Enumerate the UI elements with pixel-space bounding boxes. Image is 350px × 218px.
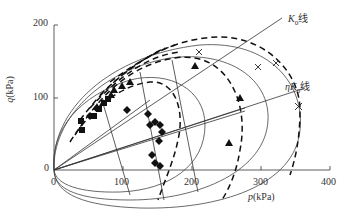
x-tick-label-400: 400 bbox=[321, 176, 336, 187]
triangle-marker bbox=[225, 139, 233, 146]
yield-curve-3 bbox=[54, 77, 205, 192]
square-marker bbox=[79, 127, 85, 133]
k0-suffix: 线 bbox=[298, 13, 308, 24]
k0-line bbox=[54, 18, 282, 170]
x-axis-unit: (kPa) bbox=[253, 191, 275, 202]
y-axis-symbol: q bbox=[4, 98, 15, 103]
x-tick-label-200: 200 bbox=[184, 176, 199, 187]
triangle-marker bbox=[191, 62, 199, 69]
y-tick-label-0: 0 bbox=[44, 162, 49, 173]
k0-line-label: K0线 bbox=[288, 10, 308, 27]
dashed-arc-6 bbox=[110, 45, 175, 82]
eta-k0-line-label: ηK0线 bbox=[285, 78, 310, 95]
x-tick-label-100: 100 bbox=[114, 176, 129, 187]
dashed-arc-2 bbox=[75, 57, 242, 200]
axes bbox=[54, 25, 330, 170]
diamond-marker bbox=[123, 106, 131, 114]
y-axis-title: q(kPa) bbox=[4, 76, 15, 103]
cross-marker bbox=[273, 60, 279, 66]
y-tick-label-100: 100 bbox=[33, 91, 48, 102]
y-axis-unit: (kPa) bbox=[4, 76, 15, 98]
eta-k-symbol: K bbox=[290, 81, 297, 92]
unload-line-2 bbox=[140, 72, 164, 200]
x-axis-title: p(kPa) bbox=[248, 191, 275, 202]
k0-symbol: K bbox=[288, 13, 295, 24]
cross-marker bbox=[196, 49, 202, 55]
y-tick-label-200: 200 bbox=[33, 17, 48, 28]
cross-marker bbox=[255, 64, 261, 70]
unload-line-3 bbox=[172, 60, 198, 192]
triangle-marker bbox=[118, 82, 126, 89]
x-tick-label-300: 300 bbox=[253, 176, 268, 187]
x-tick-label-0: 0 bbox=[51, 176, 56, 187]
diamond-marker bbox=[158, 128, 166, 136]
diamond-marker bbox=[144, 110, 152, 118]
eta-k0-suffix: 线 bbox=[300, 81, 310, 92]
square-marker bbox=[78, 118, 84, 124]
